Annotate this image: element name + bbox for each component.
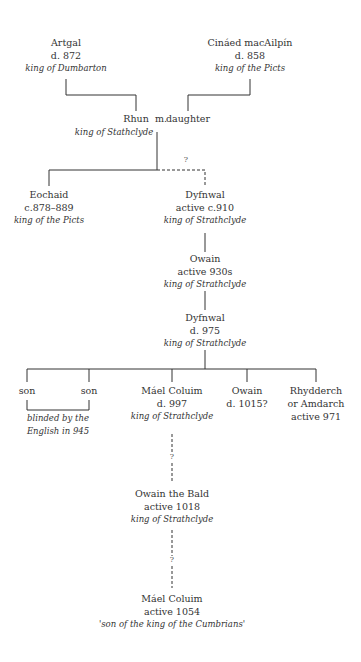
node-owain-the-bald: Owain the Bald active 1018 king of Strat… [131,487,213,526]
date: d. 858 [208,49,293,62]
node-owain-2: Owain d. 1015? [226,384,267,410]
node-mael-coluim-1: Máel Coluim d. 997 king of Strathclyde [131,384,213,423]
name: Artgal [25,36,106,49]
node-rhun-title: king of Stathclyde [75,126,153,139]
node-dyfnwal-1: Dyfnwal active c.910 king of Strathclyde [164,188,246,227]
title: king of the Picts [14,214,84,227]
uncertain-marker: ? [184,155,188,164]
node-eochaid: Eochaid c.878–889 king of the Picts [14,188,84,227]
name: Rhydderch [288,384,345,397]
node-rhydderch: Rhydderch or Amdarch active 971 [288,384,345,423]
uncertain-marker: ? [170,555,174,564]
node-son-1: son [19,384,36,397]
uncertain-marker: ? [170,452,174,461]
node-cinaed: Cináed macAilpín d. 858 king of the Pict… [208,36,293,75]
name: Owain the Bald [131,487,213,500]
date: d. 1015? [226,397,267,410]
node-son-2: son [81,384,98,397]
date: d. 997 [131,397,213,410]
name: son [81,384,98,397]
node-owain-1: Owain active 930s king of Strathclyde [164,252,246,291]
node-artgal: Artgal d. 872 king of Dumbarton [25,36,106,75]
name: Cináed macAilpín [208,36,293,49]
date: d. 872 [25,49,106,62]
node-mael-coluim-2: Máel Coluim active 1054 'son of the king… [99,592,245,631]
title: king of Strathclyde [164,337,246,350]
date: d. 975 [164,324,246,337]
title: king of Strathclyde [131,513,213,526]
name: Dyfnwal [164,188,246,201]
title: king of Dumbarton [25,62,106,75]
name: Owain [226,384,267,397]
name: Máel Coluim [131,384,213,397]
title: king of Strathclyde [164,278,246,291]
node-dyfnwal-2: Dyfnwal d. 975 king of Strathclyde [164,311,246,350]
title: king of Strathclyde [164,214,246,227]
title: king of the Picts [208,62,293,75]
node-rhun-name: Rhun [123,112,149,125]
date: c.878–889 [14,201,84,214]
date: active 930s [164,265,246,278]
date: active 1018 [131,500,213,513]
date: active 971 [288,410,345,423]
name: Eochaid [14,188,84,201]
title: 'son of the king of the Cumbrians' [99,618,245,631]
date: active 1054 [99,605,245,618]
node-daughter-name: daughter [166,112,210,125]
date: active c.910 [164,201,246,214]
title: king of Strathclyde [131,410,213,423]
alt-name: or Amdarch [288,397,345,410]
name: son [19,384,36,397]
name: Máel Coluim [99,592,245,605]
sons-note: blinded by the English in 945 [27,412,89,438]
name: Dyfnwal [164,311,246,324]
name: Owain [164,252,246,265]
